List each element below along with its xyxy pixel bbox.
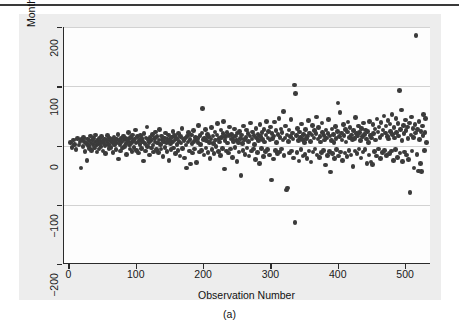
data-point: [325, 153, 330, 158]
data-point: [332, 140, 337, 145]
data-point: [293, 220, 298, 225]
data-point: [344, 140, 349, 145]
data-point: [424, 140, 429, 145]
x-tick-label: 500: [385, 268, 425, 280]
data-point: [230, 155, 235, 160]
data-point: [222, 167, 227, 172]
x-tick-label: 100: [116, 268, 156, 280]
data-point: [233, 145, 238, 150]
data-point: [293, 91, 298, 96]
data-point: [407, 121, 412, 126]
data-point: [215, 121, 220, 126]
data-point: [409, 115, 414, 120]
y-axis-title: Monthly Change in Real Consumption Expen…: [24, 0, 38, 27]
data-point: [228, 147, 233, 152]
data-point: [414, 33, 419, 38]
y-tick-label: 200: [48, 26, 60, 70]
data-point: [240, 141, 245, 146]
y-tick-label: 0: [48, 145, 60, 189]
data-point: [235, 159, 240, 164]
data-point: [367, 153, 372, 158]
data-point: [370, 162, 375, 167]
data-point: [254, 126, 259, 131]
data-point: [141, 159, 146, 164]
figure-caption: (a): [0, 308, 459, 320]
data-point: [208, 156, 213, 161]
data-point: [353, 115, 358, 120]
data-point: [347, 148, 352, 153]
data-point: [258, 122, 263, 127]
data-point: [411, 135, 416, 140]
data-point: [247, 154, 252, 159]
data-point: [299, 122, 304, 127]
data-point: [321, 148, 326, 153]
data-point: [289, 149, 294, 154]
data-point: [417, 137, 422, 142]
data-point: [366, 140, 371, 145]
data-point: [262, 140, 267, 145]
data-point: [415, 152, 420, 157]
data-point: [274, 140, 279, 145]
data-point: [190, 151, 195, 156]
data-point: [406, 157, 411, 162]
data-point: [261, 154, 266, 159]
data-point: [396, 121, 401, 126]
data-point: [257, 161, 262, 166]
data-point: [264, 119, 269, 124]
data-point: [167, 158, 172, 163]
data-point: [268, 125, 273, 130]
y-tick-label: 100: [48, 85, 60, 129]
data-point: [194, 160, 199, 165]
data-point: [336, 101, 341, 106]
data-point: [420, 124, 425, 129]
data-point: [188, 162, 193, 167]
data-point: [200, 106, 205, 111]
data-point: [182, 156, 187, 161]
data-point: [277, 116, 282, 121]
data-point: [157, 127, 162, 132]
data-point: [320, 121, 325, 126]
data-point: [116, 157, 121, 162]
data-point: [255, 150, 260, 155]
data-point: [292, 83, 297, 88]
data-point: [180, 126, 185, 131]
x-axis-title: Observation Number: [63, 289, 430, 301]
data-point: [299, 147, 304, 152]
data-point: [285, 186, 290, 191]
x-tick-label: 300: [250, 268, 290, 280]
data-point: [323, 163, 328, 168]
data-point: [382, 114, 387, 119]
data-point: [272, 120, 277, 125]
data-point: [418, 161, 423, 166]
data-point: [282, 153, 287, 158]
data-point: [196, 123, 201, 128]
data-point: [340, 158, 345, 163]
x-tick-label: 0: [48, 268, 88, 280]
data-point: [405, 125, 410, 130]
data-point: [417, 119, 422, 124]
data-point: [279, 147, 284, 152]
gridline-y: [64, 86, 430, 87]
data-point: [239, 173, 244, 178]
data-point: [395, 155, 400, 160]
data-point: [221, 119, 226, 124]
data-point: [422, 148, 427, 153]
data-point: [74, 147, 79, 152]
data-point: [397, 88, 402, 93]
data-point: [379, 120, 384, 125]
data-point: [289, 117, 294, 122]
x-tick-label: 200: [183, 268, 223, 280]
data-point: [79, 166, 84, 171]
data-point: [404, 128, 409, 133]
data-point: [161, 154, 166, 159]
data-point: [286, 139, 291, 144]
data-point: [280, 130, 285, 135]
data-point: [328, 170, 333, 175]
data-point: [423, 116, 428, 121]
data-point: [399, 108, 404, 113]
data-point: [355, 151, 360, 156]
data-point: [248, 121, 253, 126]
data-point: [400, 159, 405, 164]
gridline-y: [64, 27, 430, 28]
data-point: [156, 150, 161, 155]
